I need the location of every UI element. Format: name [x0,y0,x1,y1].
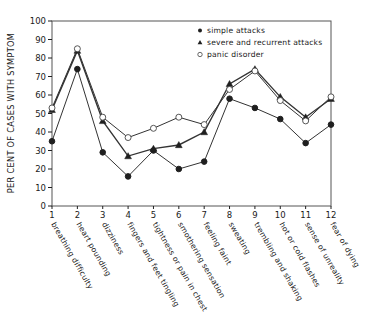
filled-circle-marker [100,150,106,156]
filled-circle-marker [75,66,81,72]
open-circle-marker [303,118,309,124]
x-category-label: sweating [227,221,253,257]
open-circle-marker [49,105,55,111]
legend-item: simple attacks [198,26,265,35]
y-tick-label: 40 [35,127,46,137]
series-layer [49,46,335,179]
legend-open-circle-icon [198,52,202,56]
open-circle-marker [252,68,258,74]
x-tick-label: 5 [151,210,156,220]
open-circle-marker [176,114,182,120]
open-circle-marker [150,125,156,131]
filled-circle-marker [277,116,283,122]
open-circle-marker [328,94,334,100]
x-tick-label: 3 [100,210,105,220]
legend-item: panic disorder [198,50,265,59]
filled-circle-marker [328,122,334,128]
y-tick-label: 50 [35,109,46,119]
y-tick-label: 90 [35,35,46,45]
legend-label: severe and recurrent attacks [207,38,322,47]
x-tick-label: 11 [300,210,311,220]
y-axis-title: PER CENT OF CASES WITH SYMPTOM [6,33,16,193]
triangle-marker [201,129,208,135]
series-line [52,51,331,156]
y-tick-label: 20 [35,164,46,174]
filled-circle-marker [303,140,309,146]
legend-triangle-icon [198,40,203,44]
open-circle-marker [201,122,207,128]
x-category-label: dizziness [100,221,126,257]
filled-circle-marker [49,138,55,144]
y-tick-label: 60 [35,90,46,100]
legend-filled-circle-icon [198,29,202,33]
series-panic-disorder [49,46,334,141]
x-tick-label: 9 [252,210,257,220]
open-circle-marker [125,135,131,141]
y-tick-label: 10 [35,183,46,193]
series-line [52,69,331,176]
legend: simple attackssevere and recurrent attac… [198,26,323,59]
y-tick-label: 0 [41,201,46,211]
x-category-label: smothering sensation [176,221,227,300]
line-chart: PER CENT OF CASES WITH SYMPTOM 010203040… [0,0,374,315]
series-simple-attacks [49,66,334,179]
open-circle-marker [74,46,80,52]
y-tick-label: 100 [30,16,46,26]
x-axis: 1breathing difficulty2heart pounding3diz… [49,206,361,313]
plot-border [52,21,331,206]
legend-item: severe and recurrent attacks [198,38,323,47]
x-tick-label: 6 [176,210,181,220]
y-axis: 0102030405060708090100 [30,16,52,211]
x-tick-label: 7 [201,210,206,220]
filled-circle-marker [227,96,233,102]
x-tick-label: 10 [275,210,286,220]
filled-circle-marker [125,174,131,180]
filled-circle-marker [176,166,182,172]
legend-label: simple attacks [207,26,265,35]
chart-canvas: PER CENT OF CASES WITH SYMPTOM 010203040… [0,0,374,315]
triangle-marker [226,81,233,87]
x-tick-label: 1 [49,210,54,220]
plot-frame [52,21,331,206]
x-category-label: fingers and feet tingling [125,221,181,309]
x-tick-label: 4 [125,210,130,220]
y-tick-label: 80 [35,53,46,63]
x-tick-label: 12 [326,210,337,220]
filled-circle-marker [252,105,258,111]
open-circle-marker [100,114,106,120]
x-category-label: trembling and shaking [252,221,305,303]
open-circle-marker [277,98,283,104]
open-circle-marker [227,86,233,92]
y-tick-label: 30 [35,146,46,156]
legend-label: panic disorder [207,50,265,59]
series-severe-and-recurrent-attacks [49,47,335,159]
filled-circle-marker [201,159,207,165]
y-axis-label: PER CENT OF CASES WITH SYMPTOM [6,33,16,193]
x-tick-label: 2 [75,210,80,220]
y-tick-label: 70 [35,72,46,82]
x-tick-label: 8 [227,210,232,220]
